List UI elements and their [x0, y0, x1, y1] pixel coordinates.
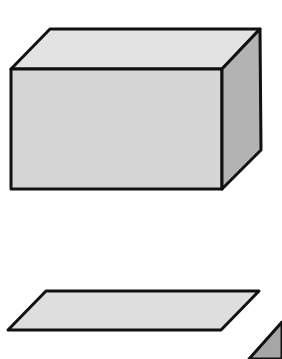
diagram-svg [0, 0, 282, 359]
prism-front-face [11, 69, 222, 189]
diagram-canvas [0, 0, 282, 359]
partial-shape-cropped [249, 322, 282, 359]
prism-top-face [11, 29, 260, 69]
parallelogram [8, 291, 259, 330]
rectangular-prism [11, 29, 261, 189]
